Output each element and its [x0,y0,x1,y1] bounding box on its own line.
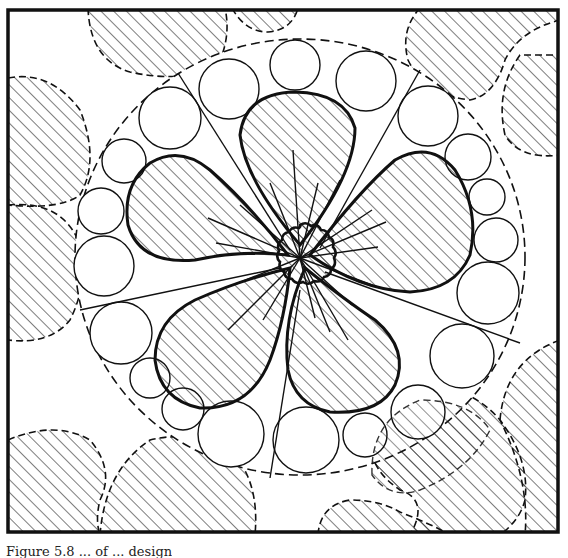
blob-left-upper [8,77,90,207]
blob-bottom-left [8,430,106,535]
flower-design-figure [0,0,568,545]
blob-right-upper [502,55,560,156]
blob-left-mid [8,204,83,340]
flower-center [277,223,336,284]
figure-caption: Figure 5.8 ... of ... design [6,545,172,558]
